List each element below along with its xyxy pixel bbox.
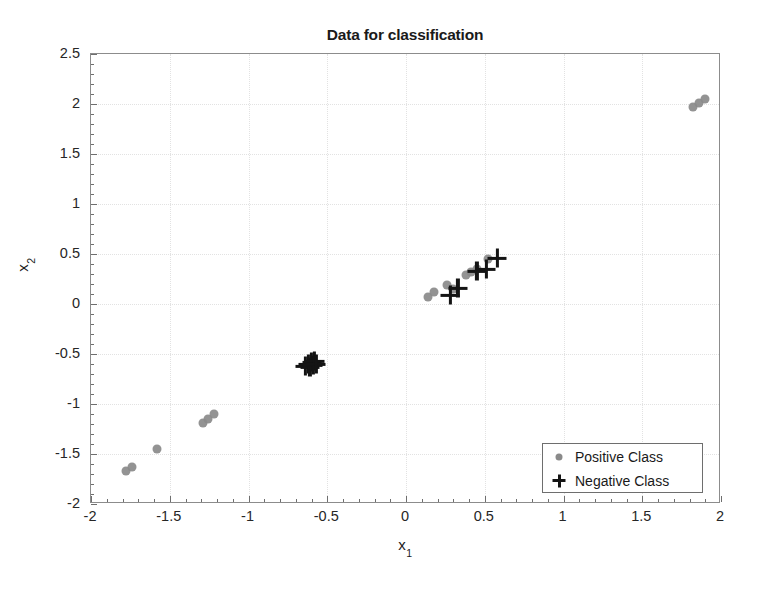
y-tick-major: [91, 404, 97, 405]
x-tick-major: [170, 496, 171, 502]
x-tick-minor: [343, 499, 344, 502]
x-tick-minor: [390, 499, 391, 502]
x-tick-minor: [201, 499, 202, 502]
x-tick-minor: [375, 499, 376, 502]
y-tick-minor: [91, 244, 94, 245]
x-tick-label: -2: [84, 508, 97, 524]
y-axis-label-subscript: 2: [25, 258, 37, 264]
gridline-vertical: [406, 54, 407, 502]
y-tick-minor: [91, 394, 94, 395]
y-tick-minor: [91, 164, 94, 165]
y-tick-minor: [91, 444, 94, 445]
y-tick-minor: [91, 384, 94, 385]
x-tick-minor: [548, 499, 549, 502]
y-tick-label: 0.5: [34, 245, 80, 261]
x-tick-minor: [422, 499, 423, 502]
gridline-vertical: [327, 54, 328, 502]
x-tick-minor: [501, 499, 502, 502]
gridline-vertical: [249, 54, 250, 502]
y-axis-label: x2: [14, 235, 34, 295]
y-tick-minor: [91, 84, 94, 85]
x-tick-minor: [579, 499, 580, 502]
y-tick-label: 1: [34, 195, 80, 211]
x-tick-minor: [280, 499, 281, 502]
y-tick-major: [91, 304, 97, 305]
legend-plus-marker-icon: [543, 468, 575, 493]
y-tick-minor: [91, 284, 94, 285]
data-point-positive-class: [127, 463, 136, 472]
figure-canvas: Data for classification -2-1.5-1-0.500.5…: [0, 0, 769, 594]
y-tick-minor: [91, 214, 94, 215]
x-tick-minor: [516, 499, 517, 502]
legend-label-negative-class: Negative Class: [575, 473, 669, 489]
y-tick-minor: [91, 294, 94, 295]
y-tick-major: [91, 454, 97, 455]
y-tick-major: [91, 204, 97, 205]
y-tick-label: -0.5: [34, 345, 80, 361]
y-tick-minor: [91, 194, 94, 195]
gridline-horizontal: [91, 104, 719, 105]
y-tick-label: -1: [34, 395, 80, 411]
y-tick-minor: [91, 344, 94, 345]
x-tick-minor: [264, 499, 265, 502]
gridline-horizontal: [91, 304, 719, 305]
x-tick-minor: [154, 499, 155, 502]
x-tick-minor: [595, 499, 596, 502]
gridline-horizontal: [91, 354, 719, 355]
y-tick-minor: [91, 184, 94, 185]
y-tick-minor: [91, 324, 94, 325]
y-tick-minor: [91, 64, 94, 65]
legend-item-positive-class: Positive Class: [543, 444, 702, 469]
y-tick-major: [91, 154, 97, 155]
x-tick-major: [721, 496, 722, 502]
x-tick-major: [642, 496, 643, 502]
gridline-vertical: [642, 54, 643, 502]
y-tick-minor: [91, 364, 94, 365]
data-point-negative-class: [488, 249, 507, 268]
y-tick-minor: [91, 134, 94, 135]
x-tick-label: 1.5: [631, 508, 651, 524]
data-point-positive-class: [701, 95, 710, 104]
x-tick-minor: [674, 499, 675, 502]
x-tick-minor: [107, 499, 108, 502]
x-tick-label: -1.5: [156, 508, 181, 524]
x-tick-minor: [453, 499, 454, 502]
chart-title: Data for classification: [90, 26, 720, 44]
gridline-vertical: [170, 54, 171, 502]
y-tick-label: 2.5: [34, 45, 80, 61]
gridline-vertical: [564, 54, 565, 502]
x-tick-major: [485, 496, 486, 502]
x-tick-major: [406, 496, 407, 502]
x-tick-minor: [359, 499, 360, 502]
data-point-positive-class: [153, 445, 162, 454]
x-tick-minor: [690, 499, 691, 502]
legend-dot-marker-icon: [543, 444, 575, 469]
gridline-horizontal: [91, 404, 719, 405]
y-axis-label-base: x: [14, 264, 31, 272]
y-tick-minor: [91, 434, 94, 435]
x-tick-minor: [123, 499, 124, 502]
y-tick-minor: [91, 374, 94, 375]
x-tick-label: 1: [558, 508, 566, 524]
x-tick-label: 0: [401, 508, 409, 524]
x-tick-label: 2: [716, 508, 724, 524]
data-point-positive-class: [430, 288, 439, 297]
legend-box: Positive Class Negative Class: [542, 443, 703, 493]
y-tick-major: [91, 354, 97, 355]
y-tick-minor: [91, 334, 94, 335]
y-tick-major: [91, 504, 97, 505]
x-tick-label: 0.5: [474, 508, 494, 524]
y-tick-label: -1.5: [34, 445, 80, 461]
x-tick-major: [327, 496, 328, 502]
y-tick-minor: [91, 274, 94, 275]
x-axis-label: x1: [90, 536, 720, 556]
x-tick-minor: [611, 499, 612, 502]
y-tick-minor: [91, 124, 94, 125]
plot-area: [90, 53, 720, 503]
x-tick-minor: [296, 499, 297, 502]
y-tick-minor: [91, 174, 94, 175]
x-tick-label: -0.5: [314, 508, 339, 524]
legend-label-positive-class: Positive Class: [575, 449, 663, 465]
x-tick-minor: [469, 499, 470, 502]
y-tick-label: 1.5: [34, 145, 80, 161]
